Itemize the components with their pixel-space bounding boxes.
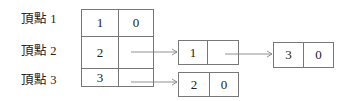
arrow-node-a-to-node-c-icon — [225, 51, 272, 57]
pointer-arrows — [0, 0, 350, 101]
adjacency-list-diagram: 頂點 1 頂點 2 頂點 3 1 0 2 3 1 2 0 3 0 — [0, 0, 350, 101]
arrow-vertex3-to-node-b-icon — [131, 79, 177, 85]
arrow-vertex2-to-node-a-icon — [131, 49, 177, 55]
